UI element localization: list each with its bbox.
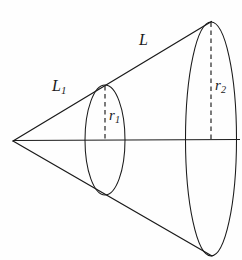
label-slant-partial: L1 (52, 78, 67, 96)
cone-frustum-figure: L L1 r1 r2 (0, 0, 242, 260)
label-slant-full-text: L (139, 31, 148, 48)
label-radius-large-subscript: 2 (221, 84, 226, 95)
label-slant-full: L (139, 32, 148, 48)
label-radius-large: r2 (215, 78, 226, 95)
label-radius-small: r1 (109, 108, 120, 125)
cone-diagram-svg (0, 0, 242, 260)
label-slant-partial-subscript: 1 (61, 84, 66, 96)
axis-line (13, 140, 240, 141)
label-radius-small-subscript: 1 (115, 114, 120, 125)
label-slant-partial-text: L (52, 77, 61, 94)
label-radius-large-text: r (215, 77, 221, 93)
lower-slant-line (13, 141, 212, 256)
label-radius-small-text: r (109, 107, 115, 123)
